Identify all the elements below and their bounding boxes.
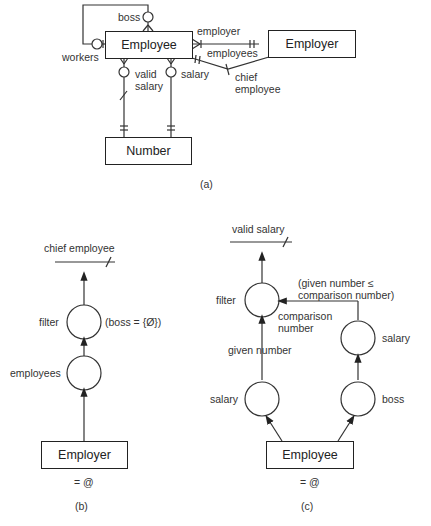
- label-boss-c: boss: [382, 393, 404, 405]
- label-boss: boss: [118, 11, 140, 23]
- entity-employer: Employer: [268, 30, 356, 58]
- caption-b: (b): [75, 500, 88, 512]
- entity-number: Number: [105, 137, 192, 165]
- label-salary-right: salary: [382, 332, 410, 344]
- label-valid: valid: [135, 68, 157, 80]
- label-chief-employee-output: chief employee: [44, 242, 115, 254]
- label-condition-2: comparison number): [298, 289, 394, 301]
- label-condition-1: (given number ≤: [298, 277, 374, 289]
- label-employer: employer: [197, 25, 240, 37]
- label-chief: chief: [235, 71, 257, 83]
- label-comparison-number: number: [278, 322, 314, 334]
- entity-employee-c: Employee: [266, 441, 354, 469]
- label-employees: employees: [207, 47, 258, 59]
- label-filter: filter: [39, 316, 59, 328]
- label-salary: salary: [181, 68, 209, 80]
- entity-employee: Employee: [105, 31, 193, 59]
- label-eq-c: = @: [300, 476, 320, 488]
- label-filter-c: filter: [216, 294, 236, 306]
- label-employees: employees: [10, 367, 61, 379]
- label-condition: (boss = {Ø}): [105, 316, 161, 328]
- label-eq-b: = @: [74, 476, 94, 488]
- label-salary-left: salary: [210, 393, 238, 405]
- entity-employer-b: Employer: [41, 441, 128, 469]
- label-workers: workers: [62, 51, 99, 63]
- label-chief-employee: employee: [235, 83, 281, 95]
- caption-c: (c): [301, 500, 313, 512]
- label-valid-salary-output: valid salary: [232, 223, 285, 235]
- label-valid-salary: salary: [135, 80, 163, 92]
- caption-a: (a): [200, 178, 213, 190]
- label-given-number: given number: [228, 344, 292, 356]
- label-comparison: comparison: [278, 310, 332, 322]
